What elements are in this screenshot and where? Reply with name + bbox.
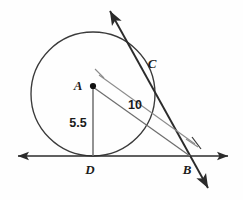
geometry-diagram-canvas: A B C D 5.5 10 (0, 0, 243, 200)
point-label-A: A (73, 78, 83, 93)
point-A-dot (90, 83, 96, 89)
point-label-B: B (182, 162, 192, 177)
point-label-C: C (148, 56, 157, 71)
dimension-line-A-to-B (99, 75, 195, 144)
secant-line-through-C-and-B (110, 11, 208, 188)
geometry-svg-root: A B C D 5.5 10 (0, 0, 243, 200)
measurement-label-radius: 5.5 (69, 116, 86, 130)
measurement-label-distance: 10 (128, 98, 142, 112)
point-label-D: D (84, 162, 95, 177)
dimension-tick-near-A (95, 69, 104, 78)
